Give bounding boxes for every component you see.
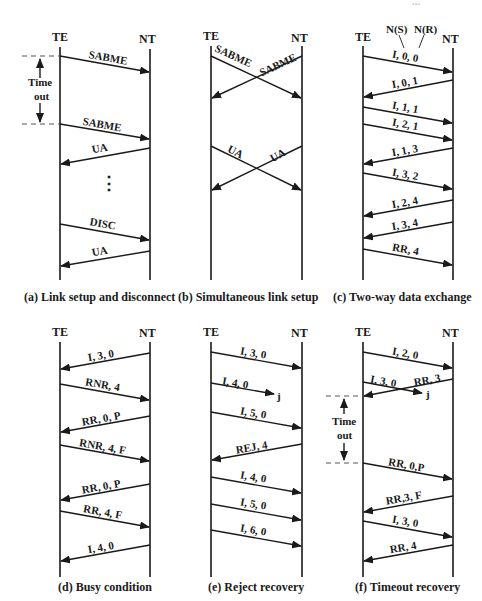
message-label: I, 3, 0 [369, 373, 397, 389]
ns-annotation: N(S) [386, 23, 408, 36]
message-label: I, 2, 4 [391, 194, 419, 210]
message-label: DISC [89, 215, 117, 231]
panel-a-link-setup-and-disconnect: TE NT Time out SABME SABME UA ⋮ DISC UA … [22, 30, 175, 304]
message-label: RR, 3 [413, 371, 442, 388]
te-label: TE [355, 30, 371, 44]
panel-b-simultaneous-link-setup: TE NT SABME SABME UA UA (b) Simultaneous… [178, 29, 319, 304]
panel-caption: (b) Simultaneous link setup [178, 290, 319, 304]
message-label: I, 1, 3 [391, 142, 419, 158]
nt-label: NT [291, 31, 308, 45]
nt-label: NT [291, 326, 308, 340]
message-label: I, 3, 0 [87, 347, 115, 363]
timeout-label: out [337, 429, 353, 441]
timeout-label: Time [332, 415, 356, 427]
panel-caption: (a) Link setup and disconnect [24, 290, 175, 304]
te-label: TE [203, 325, 219, 339]
message-label: UA [91, 244, 109, 259]
message-label: SABME [88, 48, 129, 67]
hdlc-sequence-diagram: ... TE NT Time out SABME SABME UA ⋮ DISC… [0, 0, 482, 601]
timeout-label: out [34, 90, 50, 102]
message-label: I, 4, 0 [87, 539, 115, 555]
ellipsis: ⋮ [100, 173, 118, 193]
panel-f-timeout-recovery: TE NT I, 2, 0 I, 3, 0 j RR, 3 Time out R… [326, 325, 460, 594]
nr-annotation: N(R) [414, 23, 438, 36]
top-edge-fragment: ... [412, 0, 421, 7]
message-label: RNR, 4 [84, 375, 121, 393]
panel-d-busy-condition: TE NT I, 3, 0 RNR, 4 RR, 0, P RNR, 4, F … [52, 325, 156, 594]
nt-label: NT [139, 326, 156, 340]
message-label: I, 2, 0 [391, 345, 419, 361]
message-label: RR, 4 [389, 539, 418, 556]
te-label: TE [52, 30, 68, 44]
panel-caption: (d) Busy condition [58, 580, 152, 594]
message-label: RR,3, F [385, 488, 423, 506]
message-label: UA [91, 141, 109, 156]
message-label: SABME [213, 42, 254, 69]
message-label: I, 3, 4 [391, 216, 419, 232]
panel-c-two-way-data-exchange: TE NT N(S) N(R) I, 0, 0 I, 0, 1 I, 1, 1 … [333, 23, 472, 304]
nt-label: NT [442, 32, 459, 46]
panel-caption: (c) Two-way data exchange [333, 290, 472, 304]
message-label: I, 3, 2 [391, 166, 419, 182]
panel-caption: (e) Reject recovery [208, 580, 304, 594]
te-label: TE [203, 29, 219, 43]
nr-pointer [419, 35, 424, 48]
te-label: TE [355, 325, 371, 339]
nt-label: NT [139, 32, 156, 46]
message-label: UA [226, 142, 246, 160]
lost-frame-marker: j [425, 388, 430, 400]
timeout-label: Time [28, 76, 52, 88]
panel-caption: (f) Timeout recovery [355, 580, 460, 594]
te-label: TE [52, 325, 68, 339]
lost-frame-marker: j [276, 390, 281, 402]
message-label: I, 4, 0 [221, 374, 249, 390]
message-label: SABME [257, 51, 298, 78]
ns-pointer [399, 35, 404, 48]
nt-label: NT [442, 326, 459, 340]
panel-e-reject-recovery: TE NT I, 3, 0 I, 4, 0 j I, 5, 0 REJ, 4 I… [203, 325, 308, 594]
